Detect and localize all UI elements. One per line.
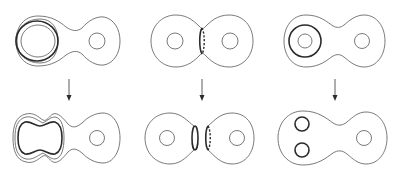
- surface-outline: [13, 113, 120, 163]
- right-hole: [90, 131, 105, 146]
- surgery-diagram: [0, 0, 398, 177]
- right-hole: [230, 131, 245, 146]
- left-hole: [160, 131, 175, 146]
- panel-3-top: [284, 15, 385, 67]
- right-hole: [222, 33, 238, 49]
- left-hole: [21, 25, 55, 57]
- surface-outline: [278, 111, 387, 165]
- surface-outline: [16, 16, 120, 66]
- panel-3-bottom: [278, 111, 387, 165]
- right-hole: [355, 34, 370, 49]
- small-circle-upper: [295, 117, 309, 131]
- panel-2-bottom: [145, 113, 254, 164]
- thick-curve: [289, 25, 321, 57]
- arrow-head-icon: [333, 95, 338, 101]
- panel-1-bottom: [13, 113, 120, 163]
- arrow-head-icon: [67, 95, 72, 101]
- panel-1-top: [16, 16, 120, 66]
- neck-curve-back: [202, 28, 204, 54]
- thick-curve: [16, 21, 58, 61]
- panel-2-top: [151, 15, 253, 67]
- left-hole: [298, 34, 312, 48]
- arrow-head-icon: [200, 95, 205, 101]
- right-boundary-back: [208, 126, 210, 150]
- arrow-3: [333, 79, 338, 101]
- small-circle-lower: [295, 143, 309, 157]
- right-hole: [89, 33, 105, 49]
- right-boundary-front: [206, 126, 208, 150]
- left-hole: [167, 33, 183, 49]
- arrow-2: [200, 79, 205, 101]
- right-piece-outline: [208, 113, 254, 164]
- left-boundary-circle: [192, 126, 198, 150]
- left-piece-outline: [145, 113, 194, 164]
- neck-curve-front: [200, 28, 202, 54]
- arrow-1: [67, 79, 72, 101]
- thick-curve: [18, 122, 62, 154]
- right-hole: [357, 131, 372, 146]
